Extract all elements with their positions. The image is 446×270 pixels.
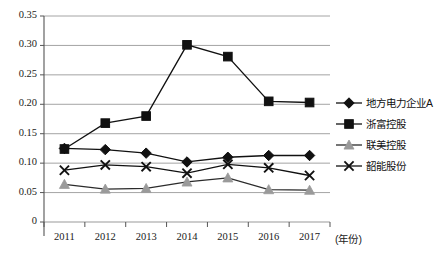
data-point-square	[183, 41, 192, 50]
legend-marker-diamond-icon	[336, 96, 362, 110]
chart-legend: 地方电力企业A浙富控股联美控股韶能股份	[336, 92, 446, 176]
data-point-square	[264, 97, 273, 106]
legend-item-4[interactable]: 韶能股份	[336, 155, 446, 176]
x-axis-tick-label: 2015	[205, 231, 251, 242]
data-point-diamond	[304, 150, 314, 160]
data-point-diamond	[100, 144, 110, 154]
data-point-square	[142, 112, 151, 121]
legend-item-1[interactable]: 地方电力企业A	[336, 92, 446, 113]
y-axis-tick-label: 0.05	[0, 186, 37, 197]
data-point-diamond	[182, 157, 192, 167]
x-axis-unit-label: (年份)	[335, 231, 362, 246]
x-axis-tick-label: 2013	[123, 231, 169, 242]
x-axis-tick-label: 2016	[246, 231, 292, 242]
data-point-square	[60, 145, 69, 154]
data-point-square	[305, 98, 314, 107]
data-point-diamond	[264, 150, 274, 160]
legend-marker-cross-icon	[336, 159, 362, 173]
y-axis-tick-label: 0.15	[0, 127, 37, 138]
y-axis-tick-label: 0	[0, 215, 37, 226]
data-point-square	[224, 52, 233, 61]
legend-item-3[interactable]: 联美控股	[336, 134, 446, 155]
data-point-square	[345, 119, 354, 128]
y-axis-tick-label: 0.35	[0, 9, 37, 20]
x-axis-tick-label: 2014	[164, 231, 210, 242]
legend-marker-square-icon	[336, 117, 362, 131]
y-axis-tick-label: 0.10	[0, 156, 37, 167]
x-axis-tick-label: 2012	[82, 231, 128, 242]
legend-marker-triangle-icon	[336, 138, 362, 152]
data-point-triangle	[223, 173, 233, 182]
legend-label: 浙富控股	[366, 116, 406, 131]
y-axis-tick-label: 0.25	[0, 68, 37, 79]
data-point-triangle	[59, 179, 69, 188]
line-chart: 地方电力企业A浙富控股联美控股韶能股份 00.050.100.150.200.2…	[0, 0, 446, 270]
data-point-diamond	[344, 97, 354, 107]
x-axis-tick-label: 2017	[287, 231, 333, 242]
y-axis-tick-label: 0.30	[0, 38, 37, 49]
legend-item-2[interactable]: 浙富控股	[336, 113, 446, 134]
legend-label: 韶能股份	[366, 158, 406, 173]
data-point-diamond	[141, 148, 151, 158]
legend-label: 地方电力企业A	[366, 95, 433, 110]
y-axis-tick-label: 0.20	[0, 97, 37, 108]
data-point-square	[101, 119, 110, 128]
legend-label: 联美控股	[366, 137, 406, 152]
x-axis-tick-label: 2011	[41, 231, 87, 242]
